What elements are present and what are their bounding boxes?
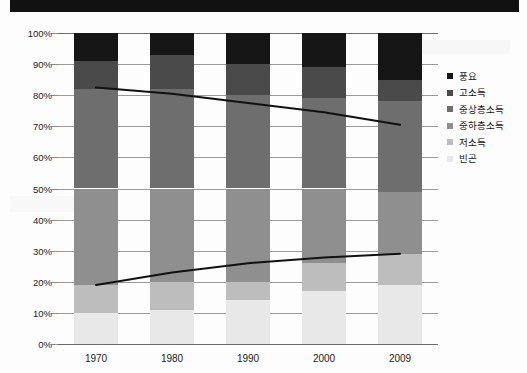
- bar-segment: [378, 285, 422, 344]
- y-tick-mark: [51, 126, 58, 127]
- bar-segment: [302, 189, 346, 264]
- y-axis-label-10: 10%: [33, 307, 52, 318]
- y-tick-mark: [51, 33, 58, 34]
- legend-swatch-icon: [447, 156, 453, 162]
- x-axis-label-1980: 1980: [137, 353, 207, 364]
- y-tick-mark: [51, 64, 58, 65]
- bar-segment: [378, 254, 422, 285]
- legend-item-1[interactable]: 고소득: [447, 85, 525, 102]
- y-tick-mark: [51, 189, 58, 190]
- legend-item-4[interactable]: 저소득: [447, 134, 525, 151]
- legend-item-3[interactable]: 중하층소득: [447, 118, 525, 135]
- bar-segment: [226, 300, 270, 344]
- x-axis-label-2000: 2000: [289, 353, 359, 364]
- bar-segment: [378, 192, 422, 254]
- y-tick-mark: [51, 157, 58, 158]
- y-axis-label-0: 0%: [38, 339, 52, 350]
- y-axis-label-90: 90%: [33, 59, 52, 70]
- y-tick-mark: [51, 282, 58, 283]
- legend-swatch-icon: [447, 90, 453, 96]
- bar-segment: [74, 285, 118, 313]
- bar-segment: [74, 189, 118, 285]
- bar-segment: [226, 95, 270, 188]
- bar-segment: [302, 263, 346, 291]
- bar-segment: [378, 33, 422, 80]
- y-axis-label-80: 80%: [33, 90, 52, 101]
- y-tick-mark: [51, 313, 58, 314]
- bar-2009: 2009: [378, 33, 422, 344]
- legend-swatch-icon: [447, 106, 453, 112]
- top-banner: [10, 0, 519, 12]
- bar-segment: [226, 33, 270, 64]
- legend-item-2[interactable]: 중상층소득: [447, 101, 525, 118]
- bar-segment: [74, 61, 118, 89]
- legend-item-label: 중상층소득: [459, 105, 504, 115]
- x-axis-label-1970: 1970: [61, 353, 131, 364]
- bar-segment: [302, 291, 346, 344]
- legend-item-label: 고소득: [459, 88, 486, 98]
- legend-item-5[interactable]: 빈곤: [447, 151, 525, 168]
- plot-box: 0%10%20%30%40%50%60%70%80%90%100%1970198…: [58, 33, 438, 344]
- bar-segment: [150, 282, 194, 310]
- y-axis-label-30: 30%: [33, 245, 52, 256]
- bar-segment: [150, 189, 194, 282]
- bar-segment: [150, 55, 194, 89]
- y-axis-label-60: 60%: [33, 152, 52, 163]
- y-axis-label-20: 20%: [33, 276, 52, 287]
- chart-plot-area: 0%10%20%30%40%50%60%70%80%90%100%1970198…: [58, 33, 438, 344]
- bar-2000: 2000: [302, 33, 346, 344]
- bar-segment: [302, 33, 346, 67]
- legend-item-label: 중하층소득: [459, 121, 504, 131]
- bar-segment: [226, 282, 270, 301]
- y-axis-label-40: 40%: [33, 214, 52, 225]
- bar-segment: [378, 80, 422, 102]
- bar-segment: [226, 64, 270, 95]
- x-axis-label-2009: 2009: [365, 353, 435, 364]
- legend-swatch-icon: [447, 139, 453, 145]
- bar-segment: [74, 33, 118, 61]
- bar-segment: [150, 33, 194, 55]
- bar-1980: 1980: [150, 33, 194, 344]
- bar-segment: [302, 98, 346, 188]
- legend-swatch-icon: [447, 73, 453, 79]
- bar-1990: 1990: [226, 33, 270, 344]
- legend-item-0[interactable]: 풍요: [447, 68, 525, 85]
- chart-page: 0%10%20%30%40%50%60%70%80%90%100%1970198…: [0, 0, 527, 373]
- legend-item-label: 풍요: [459, 72, 477, 82]
- legend-swatch-icon: [447, 123, 453, 129]
- y-axis-label-70: 70%: [33, 121, 52, 132]
- legend-item-label: 저소득: [459, 138, 486, 148]
- y-axis-label-100: 100%: [28, 28, 52, 39]
- bar-segment: [74, 313, 118, 344]
- bar-segment: [226, 189, 270, 282]
- y-tick-mark: [51, 95, 58, 96]
- bar-segment: [150, 310, 194, 344]
- legend-item-label: 빈곤: [459, 154, 477, 164]
- x-axis-label-1990: 1990: [213, 353, 283, 364]
- bar-segment: [74, 89, 118, 189]
- gridline-0: [58, 344, 438, 345]
- chart-legend: 풍요고소득중상층소득중하층소득저소득빈곤: [447, 68, 525, 167]
- bar-segment: [378, 101, 422, 191]
- y-axis-label-50: 50%: [33, 183, 52, 194]
- y-tick-mark: [51, 251, 58, 252]
- y-tick-mark: [51, 220, 58, 221]
- bar-segment: [302, 67, 346, 98]
- bar-segment: [150, 89, 194, 189]
- bar-1970: 1970: [74, 33, 118, 344]
